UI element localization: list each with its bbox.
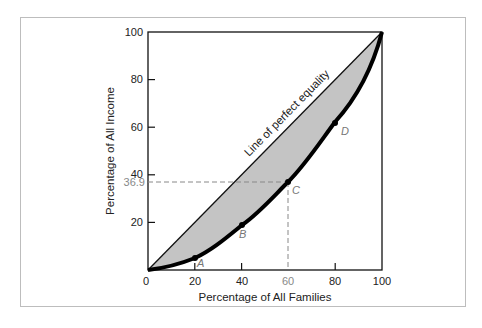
y-axis-ticks [148,80,155,223]
y-tick-60: 60 [131,121,143,133]
point-label-d: D [341,125,349,137]
ref-value-label: 36.9 [124,176,145,188]
equality-line [148,32,382,270]
y-axis-title: Percentage of All Income [104,87,116,215]
x-tick-40: 40 [236,275,248,287]
x-tick-100: 100 [373,275,391,287]
point-d [332,120,338,126]
lorenz-chart: A B C D 20 40 60 80 100 36.9 0 20 40 60 … [0,0,482,328]
point-c [285,179,291,185]
x-tick-20: 20 [189,275,201,287]
x-tick-60: 60 [282,275,294,287]
y-tick-80: 80 [131,73,143,85]
y-tick-20: 20 [131,216,143,228]
point-label-c: C [292,184,300,196]
x-tick-0: 0 [143,275,149,287]
point-label-b: B [239,228,246,240]
x-axis-ticks [195,263,335,270]
point-label-a: A [196,257,204,269]
x-axis-title: Percentage of All Families [199,291,332,303]
y-tick-100: 100 [125,26,143,38]
x-tick-80: 80 [329,275,341,287]
